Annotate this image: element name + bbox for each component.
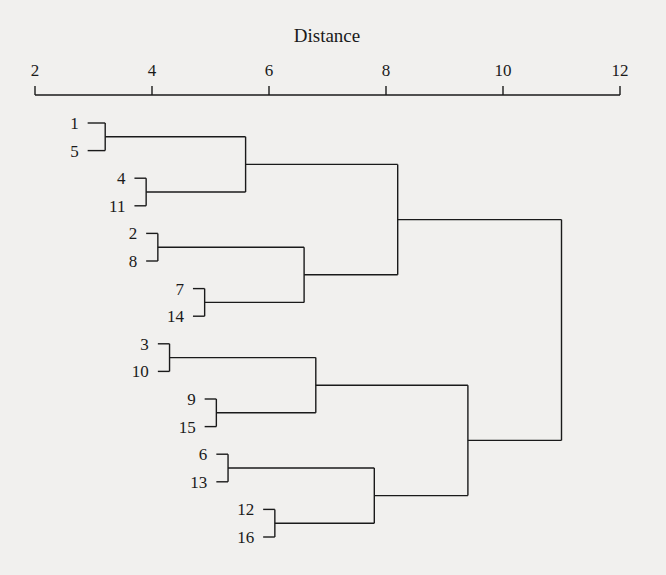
leaf-label: 6 bbox=[199, 445, 208, 464]
leaf-label: 7 bbox=[175, 280, 184, 299]
dendrogram-chart: Distance 24681012 1541128714310915613121… bbox=[0, 0, 666, 575]
x-axis-label: Distance bbox=[294, 25, 360, 46]
leaf-label: 5 bbox=[70, 142, 79, 161]
leaf-label: 15 bbox=[179, 418, 196, 437]
leaf-label: 10 bbox=[132, 362, 149, 381]
leaf-label: 4 bbox=[117, 169, 126, 188]
leaf-label: 3 bbox=[140, 335, 149, 354]
x-tick-label: 12 bbox=[612, 61, 629, 80]
x-tick-label: 2 bbox=[31, 61, 40, 80]
leaf-label: 9 bbox=[187, 390, 196, 409]
x-tick-label: 4 bbox=[148, 61, 157, 80]
leaf-label: 14 bbox=[167, 307, 185, 326]
leaf-label: 16 bbox=[237, 528, 254, 547]
leaf-label: 11 bbox=[109, 197, 125, 216]
leaf-label: 1 bbox=[70, 114, 79, 133]
dendrogram-tree bbox=[88, 123, 562, 537]
leaf-label: 2 bbox=[129, 224, 138, 243]
x-tick-label: 6 bbox=[265, 61, 274, 80]
x-axis: 24681012 bbox=[31, 61, 629, 95]
x-tick-label: 8 bbox=[382, 61, 391, 80]
leaf-label: 8 bbox=[129, 252, 138, 271]
leaf-label: 13 bbox=[190, 473, 207, 492]
x-tick-label: 10 bbox=[495, 61, 512, 80]
leaf-label: 12 bbox=[237, 500, 254, 519]
